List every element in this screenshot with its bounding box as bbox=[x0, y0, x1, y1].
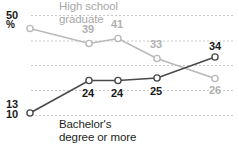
gridlines bbox=[31, 16, 233, 116]
marker-ba-1 bbox=[86, 77, 92, 83]
marker-hs-4 bbox=[212, 75, 218, 81]
series-annotation-hs-line2: graduate bbox=[59, 13, 118, 26]
series-markers-high-school-graduate bbox=[27, 25, 218, 81]
marker-hs-2 bbox=[115, 35, 121, 41]
y-axis-percent-symbol: % bbox=[6, 20, 18, 30]
series-annotation-ba-line1: Bachelor's bbox=[59, 118, 136, 131]
point-label-hs-3: 33 bbox=[150, 38, 162, 50]
series-annotation-bachelors-degree: Bachelor's degree or more bbox=[59, 118, 136, 144]
marker-ba-4 bbox=[212, 54, 218, 60]
point-label-ba-3: 25 bbox=[150, 85, 162, 97]
point-label-ba-1: 24 bbox=[82, 87, 94, 99]
marker-ba-0 bbox=[27, 110, 33, 116]
marker-ba-3 bbox=[154, 75, 160, 81]
marker-hs-3 bbox=[154, 55, 160, 61]
series-line-high-school-graduate bbox=[30, 29, 215, 79]
y-axis-bottom-label: 13 10 bbox=[6, 99, 18, 119]
series-annotation-ba-line2: degree or more bbox=[59, 131, 136, 144]
marker-hs-0 bbox=[27, 25, 33, 31]
marker-ba-2 bbox=[115, 77, 121, 83]
marker-hs-1 bbox=[86, 40, 92, 46]
series-bachelors-degree-or-more bbox=[27, 54, 218, 116]
series-high-school-graduate bbox=[27, 25, 218, 81]
y-axis-min-value: 10 bbox=[6, 109, 18, 119]
point-label-hs-4: 26 bbox=[209, 84, 221, 96]
series-annotation-hs-line1: High school bbox=[59, 0, 118, 13]
point-label-ba-4: 34 bbox=[209, 40, 221, 52]
y-axis-top-label: 50 % bbox=[6, 10, 18, 30]
series-annotation-high-school-graduate: High school graduate bbox=[59, 0, 118, 26]
point-label-ba-2: 24 bbox=[111, 87, 123, 99]
line-chart: 50 % 13 10 39 41 33 26 24 24 25 34 High … bbox=[0, 0, 239, 155]
series-markers-bachelors-degree-or-more bbox=[27, 54, 218, 116]
